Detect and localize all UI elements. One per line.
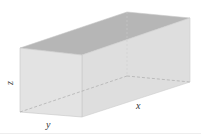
front-face bbox=[20, 48, 82, 117]
z-axis-label: z bbox=[5, 81, 15, 85]
x-axis-label: x bbox=[136, 101, 140, 111]
box-diagram: z x y bbox=[0, 0, 201, 139]
y-axis-label: y bbox=[46, 120, 50, 130]
prism-drawing bbox=[0, 0, 201, 139]
divider bbox=[0, 133, 201, 134]
